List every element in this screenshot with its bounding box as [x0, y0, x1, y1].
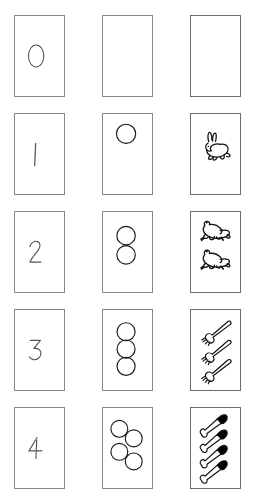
numeral-card[interactable]	[14, 113, 65, 195]
picture-card[interactable]	[190, 309, 241, 391]
number-card-sheet	[0, 0, 255, 497]
numeral-card[interactable]	[14, 15, 65, 97]
dots-card[interactable]	[102, 113, 153, 195]
card-row	[0, 211, 255, 293]
picture-card[interactable]	[190, 15, 241, 97]
numeral-card[interactable]	[14, 407, 65, 489]
dots-card[interactable]	[102, 407, 153, 489]
four-circles-icon	[103, 408, 152, 488]
empty-card-icon	[191, 16, 240, 96]
knife-icon	[191, 408, 240, 488]
digit-two-icon	[15, 212, 64, 292]
fork-icon	[191, 310, 240, 390]
rabbit-icon	[191, 114, 240, 194]
numeral-card[interactable]	[14, 211, 65, 293]
digit-zero-icon	[15, 16, 64, 96]
card-row	[0, 407, 255, 489]
digit-four-icon	[15, 408, 64, 488]
numeral-card[interactable]	[14, 309, 65, 391]
digit-three-icon	[15, 310, 64, 390]
dots-card[interactable]	[102, 211, 153, 293]
zero-circles-icon	[103, 16, 152, 96]
one-circle-icon	[103, 114, 152, 194]
card-row	[0, 309, 255, 391]
frog-icon	[191, 212, 240, 292]
three-circles-icon	[103, 310, 152, 390]
card-row	[0, 15, 255, 97]
picture-card[interactable]	[190, 113, 241, 195]
picture-card[interactable]	[190, 407, 241, 489]
digit-one-icon	[15, 114, 64, 194]
picture-card[interactable]	[190, 211, 241, 293]
card-row	[0, 113, 255, 195]
dots-card[interactable]	[102, 15, 153, 97]
dots-card[interactable]	[102, 309, 153, 391]
two-circles-icon	[103, 212, 152, 292]
